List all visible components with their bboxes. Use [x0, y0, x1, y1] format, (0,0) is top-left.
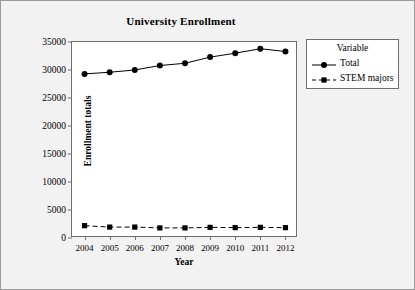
data-point	[157, 225, 162, 230]
data-point	[157, 63, 163, 69]
legend-key-filled-square	[311, 72, 337, 84]
legend-label: STEM majors	[340, 73, 394, 83]
x-tick-label: 2012	[276, 243, 294, 253]
x-tick-label: 2005	[101, 243, 119, 253]
legend-label: Total	[340, 58, 359, 68]
x-tick-label: 2004	[76, 243, 94, 253]
data-point	[232, 50, 238, 56]
data-point	[207, 54, 213, 60]
legend-entry[interactable]: Total	[311, 56, 359, 70]
legend-key-filled-circle	[311, 57, 337, 69]
data-point	[257, 46, 263, 52]
x-tick-label: 2006	[126, 243, 144, 253]
chart-legend: Variable TotalSTEM majors	[306, 39, 399, 89]
x-tick-label: 2008	[176, 243, 194, 253]
plot-inner: Enrollment totals Year 05000100001500020…	[72, 42, 296, 236]
series-layer	[72, 42, 298, 238]
data-point	[208, 225, 213, 230]
chart-title: University Enrollment	[61, 15, 301, 27]
x-axis-label: Year	[72, 257, 296, 267]
data-point	[132, 67, 138, 73]
data-point	[182, 225, 187, 230]
x-tick-label: 2011	[251, 243, 269, 253]
legend-title: Variable	[307, 43, 398, 53]
data-point	[258, 225, 263, 230]
data-point	[283, 225, 288, 230]
data-point	[107, 224, 112, 229]
data-point	[82, 71, 88, 77]
data-point	[233, 225, 238, 230]
data-point	[282, 49, 288, 55]
data-point	[107, 69, 113, 75]
x-tick-label: 2009	[201, 243, 219, 253]
series-total	[82, 46, 289, 77]
data-point	[182, 60, 188, 66]
chart-figure: University Enrollment Enrollment totals …	[0, 0, 415, 290]
plot-area: Enrollment totals Year 05000100001500020…	[71, 41, 297, 237]
legend-entry[interactable]: STEM majors	[311, 71, 394, 85]
data-point	[82, 223, 87, 228]
x-tick-label: 2010	[226, 243, 244, 253]
x-tick-label: 2007	[151, 243, 169, 253]
series-stem-majors	[82, 223, 288, 230]
data-point	[132, 224, 137, 229]
